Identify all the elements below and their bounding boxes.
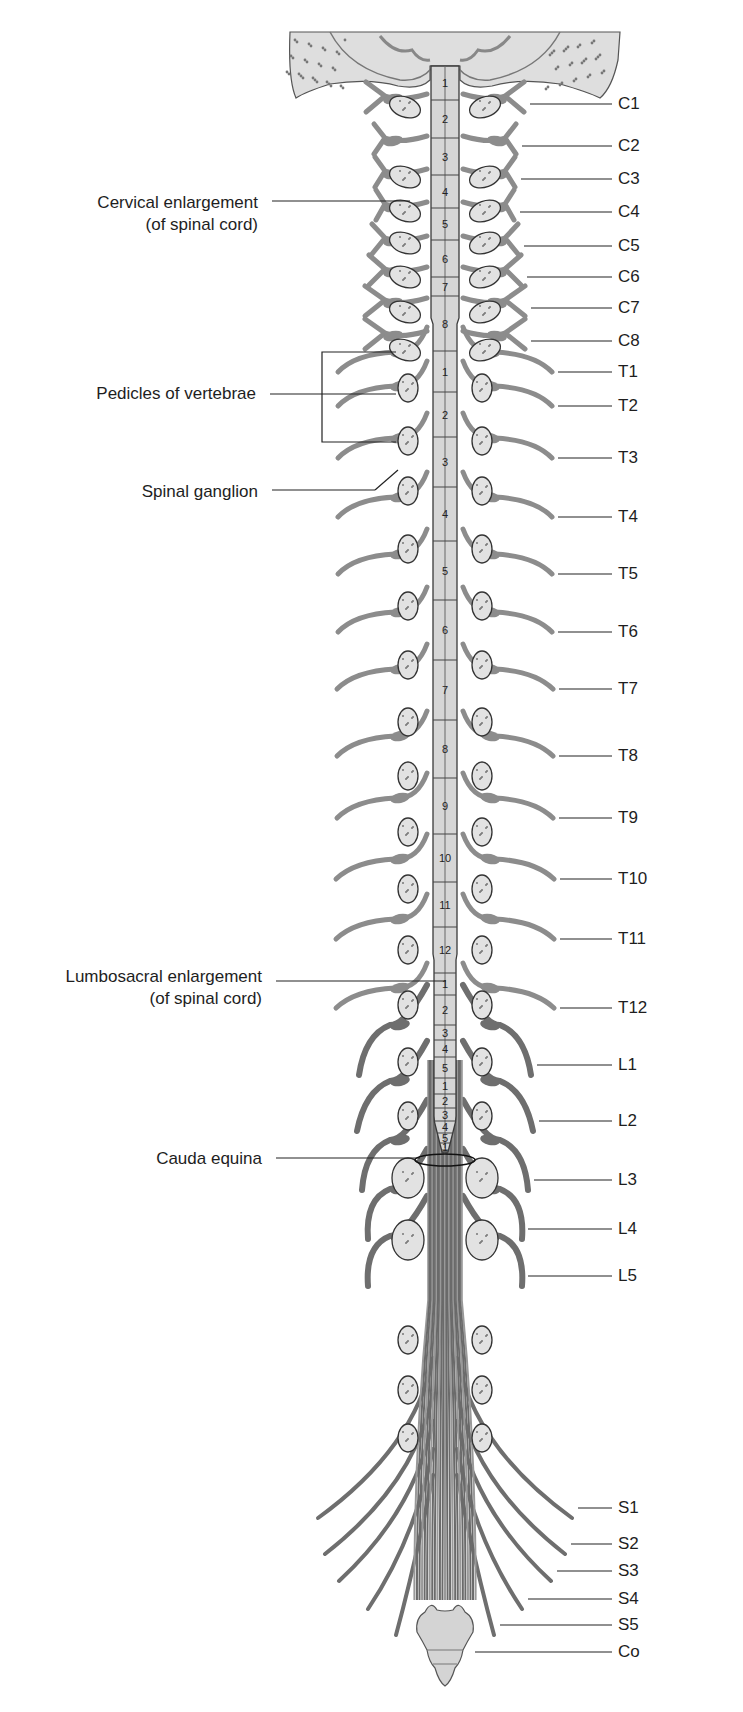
nerve-label-T1: T1 (618, 362, 638, 382)
nerve-label-C4: C4 (618, 202, 640, 222)
cord-segment-cervical-6: 6 (442, 253, 448, 265)
nerve-label-C2: C2 (618, 136, 640, 156)
label-cauda-equina-line-1: Cauda equina (156, 1148, 262, 1170)
cord-segment-lumbar-1: 1 (442, 978, 448, 990)
nerve-label-S3: S3 (618, 1561, 639, 1581)
cord-segment-thoracic-7: 7 (442, 684, 448, 696)
nerve-label-T4: T4 (618, 507, 638, 527)
cord-segment-cervical-7: 7 (442, 281, 448, 293)
cord-segment-lumbar-2: 2 (442, 1004, 448, 1016)
nerve-label-L3: L3 (618, 1170, 637, 1190)
cord-segment-thoracic-1: 1 (442, 366, 448, 378)
label-cervical-enlargement-line-2: (of spinal cord) (97, 214, 258, 236)
nerve-label-L2: L2 (618, 1111, 637, 1131)
nerve-label-C7: C7 (618, 298, 640, 318)
nerve-label-T7: T7 (618, 679, 638, 699)
cord-segment-thoracic-3: 3 (442, 456, 448, 468)
nerve-label-T2: T2 (618, 396, 638, 416)
cord-segment-thoracic-4: 4 (442, 508, 448, 520)
nerve-label-C1: C1 (618, 94, 640, 114)
cord-segment-thoracic-9: 9 (442, 800, 448, 812)
spinal-cord-illustration: 1234567812345678910111212345123451 (0, 0, 743, 1712)
label-cervical-enlargement: Cervical enlargement(of spinal cord) (97, 192, 258, 236)
label-cauda-equina: Cauda equina (156, 1148, 262, 1170)
nerve-label-T5: T5 (618, 564, 638, 584)
cord-segment-thoracic-10: 10 (439, 852, 451, 864)
nerve-label-S1: S1 (618, 1498, 639, 1518)
cord-segment-thoracic-12: 12 (439, 944, 451, 956)
cord-segment-cervical-1: 1 (442, 77, 448, 89)
nerve-label-C8: C8 (618, 331, 640, 351)
cord-segment-sacral-1: 1 (442, 1080, 448, 1092)
nerve-label-Co: Co (618, 1642, 640, 1662)
cord-segment-thoracic-11: 11 (439, 899, 450, 911)
cord-segment-thoracic-8: 8 (442, 743, 448, 755)
label-spinal-ganglion-line-1: Spinal ganglion (142, 481, 258, 503)
cord-segment-thoracic-2: 2 (442, 409, 448, 421)
cord-segment-cervical-3: 3 (442, 151, 448, 163)
nerve-label-L5: L5 (618, 1266, 637, 1286)
nerve-label-C6: C6 (618, 267, 640, 287)
cord-segment-cervical-2: 2 (442, 113, 448, 125)
nerve-label-L4: L4 (618, 1219, 637, 1239)
label-lumbosacral-enlargement-line-2: (of spinal cord) (65, 988, 262, 1010)
cord-segment-cervical-8: 8 (442, 318, 448, 330)
nerve-label-T10: T10 (618, 869, 647, 889)
nerve-label-C5: C5 (618, 236, 640, 256)
nerve-label-T3: T3 (618, 448, 638, 468)
nerve-label-T11: T11 (618, 929, 646, 949)
cord-segment-cervical-5: 5 (442, 218, 448, 230)
label-pedicles-of-vertebrae-line-1: Pedicles of vertebrae (96, 383, 256, 405)
sacrum-coccyx (417, 1605, 474, 1686)
nerve-label-T12: T12 (618, 998, 647, 1018)
cord-segment-coccygeal-1: 1 (442, 1141, 448, 1153)
label-spinal-ganglion: Spinal ganglion (142, 481, 258, 503)
nerve-label-T8: T8 (618, 746, 638, 766)
spinal-cord: 1234567812345678910111212345123451 (431, 66, 459, 1153)
spinal-cord-diagram: 1234567812345678910111212345123451 Cervi… (0, 0, 743, 1712)
nerve-label-S2: S2 (618, 1534, 639, 1554)
cord-segment-thoracic-6: 6 (442, 624, 448, 636)
label-cervical-enlargement-line-1: Cervical enlargement (97, 192, 258, 214)
cord-segment-lumbar-5: 5 (442, 1062, 448, 1074)
cord-segment-thoracic-5: 5 (442, 565, 448, 577)
nerve-label-T6: T6 (618, 622, 638, 642)
pedicle-bracket (322, 352, 396, 442)
label-lumbosacral-enlargement: Lumbosacral enlargement(of spinal cord) (65, 966, 262, 1010)
cord-segment-lumbar-4: 4 (442, 1043, 448, 1055)
cord-segment-lumbar-3: 3 (442, 1027, 448, 1039)
cord-segment-sacral-2: 2 (442, 1095, 448, 1107)
nerve-label-L1: L1 (618, 1055, 637, 1075)
nerve-label-S5: S5 (618, 1615, 639, 1635)
cord-segment-sacral-3: 3 (442, 1109, 448, 1121)
label-lumbosacral-enlargement-line-1: Lumbosacral enlargement (65, 966, 262, 988)
nerve-label-C3: C3 (618, 169, 640, 189)
label-pedicles-of-vertebrae: Pedicles of vertebrae (96, 383, 256, 405)
nerve-label-S4: S4 (618, 1589, 639, 1609)
nerve-label-T9: T9 (618, 808, 638, 828)
cord-segment-cervical-4: 4 (442, 186, 448, 198)
